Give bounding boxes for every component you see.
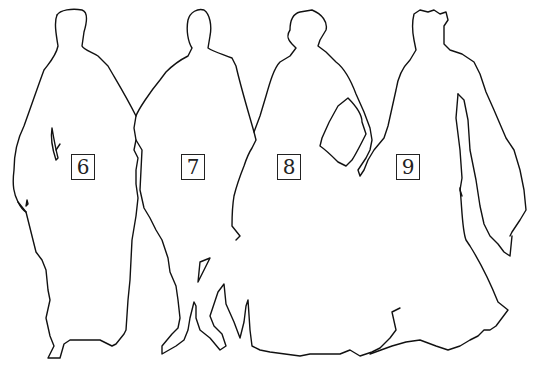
costume-silhouettes-figure: 6 7 8 9 [0,0,538,368]
label-6-text: 6 [77,157,90,177]
silhouette-9 [458,94,512,256]
silhouette-6 [57,9,256,240]
label-9: 9 [396,154,420,180]
label-7: 7 [181,154,205,180]
silhouette-7 [136,140,400,356]
silhouette-outlines [0,0,538,368]
label-8-text: 8 [283,157,296,177]
silhouette-8 [254,10,526,236]
label-6: 6 [71,154,95,180]
label-7-text: 7 [187,157,200,177]
label-9-text: 9 [402,157,415,177]
label-8: 8 [277,154,301,180]
